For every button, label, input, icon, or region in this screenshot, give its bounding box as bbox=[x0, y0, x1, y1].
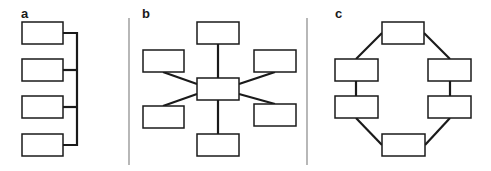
star-edge bbox=[163, 94, 197, 106]
node-box bbox=[428, 59, 471, 81]
panel-label-c: c bbox=[335, 6, 342, 21]
node-box bbox=[197, 22, 239, 44]
panel-a: a bbox=[21, 6, 77, 156]
node-box bbox=[428, 96, 471, 118]
ring-edge bbox=[424, 33, 450, 59]
node-box bbox=[143, 106, 184, 128]
node-box bbox=[254, 104, 296, 126]
ring-edge bbox=[356, 118, 382, 145]
star-edge bbox=[163, 72, 197, 84]
node-box bbox=[143, 50, 184, 72]
panel-c: c bbox=[335, 6, 471, 156]
node-box bbox=[22, 59, 63, 81]
node-box bbox=[382, 22, 424, 44]
network-topology-diagram: a b c bbox=[0, 0, 491, 171]
node-box bbox=[335, 96, 378, 118]
star-edge bbox=[239, 94, 275, 104]
node-box bbox=[22, 96, 63, 118]
hub-box bbox=[197, 78, 239, 100]
bus-line bbox=[63, 33, 77, 145]
panel-b: b bbox=[142, 6, 296, 156]
panel-label-a: a bbox=[21, 6, 29, 21]
node-box bbox=[254, 50, 296, 72]
node-box bbox=[382, 134, 425, 156]
ring-edge bbox=[356, 33, 382, 59]
node-box bbox=[197, 134, 239, 156]
panel-label-b: b bbox=[142, 6, 150, 21]
node-box bbox=[335, 59, 378, 81]
node-box bbox=[22, 134, 63, 156]
star-edge bbox=[239, 72, 275, 84]
node-box bbox=[22, 22, 63, 44]
ring-edge bbox=[425, 118, 450, 145]
